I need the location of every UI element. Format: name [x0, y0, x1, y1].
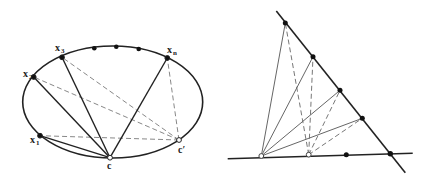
point-c-prime	[177, 138, 182, 143]
dashed-ray	[285, 23, 308, 155]
open-point-p	[259, 154, 264, 159]
diagonal-point	[283, 21, 288, 26]
dashed-segment	[34, 77, 179, 140]
intersection-point	[388, 151, 393, 156]
solid-segment	[110, 58, 167, 158]
ellipse	[23, 46, 203, 158]
diagonal-point	[311, 54, 316, 59]
point-dot	[136, 47, 141, 52]
dashed-ray	[309, 57, 313, 155]
label-c-prime: c′	[178, 144, 185, 155]
dashed-ray	[309, 90, 340, 154]
open-point-q	[306, 152, 311, 157]
point-xn	[165, 56, 170, 61]
dashed-segment	[167, 58, 179, 140]
dashed-segment	[40, 136, 179, 140]
label-c: c	[107, 160, 112, 171]
diagonal-point	[360, 116, 365, 121]
solid-ray	[261, 57, 313, 156]
point-dot	[114, 44, 119, 49]
diagonal-point	[338, 88, 343, 93]
point-dot	[92, 46, 97, 51]
dashed-ray	[309, 118, 363, 154]
base-point	[344, 152, 349, 157]
lines-figure	[228, 11, 413, 173]
label-x3: x3	[55, 42, 65, 55]
solid-ray	[261, 118, 362, 156]
ellipse-figure: x1x2x3xncc′	[23, 42, 203, 171]
solid-ray	[261, 90, 340, 156]
diagram-canvas: x1x2x3xncc′	[0, 0, 432, 184]
label-xn: xn	[167, 44, 177, 57]
point-x3	[60, 55, 65, 60]
solid-ray	[261, 23, 285, 156]
label-x2: x2	[23, 68, 33, 81]
base-line	[228, 153, 413, 158]
dashed-segment	[62, 57, 179, 140]
point-x1	[38, 133, 43, 138]
